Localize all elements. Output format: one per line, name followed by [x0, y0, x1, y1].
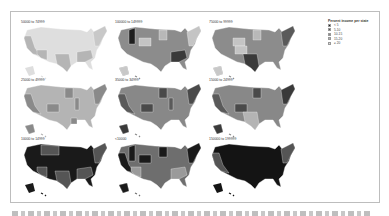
state-region-il	[75, 98, 79, 110]
legend-swatch	[328, 42, 331, 45]
map-panel: 10000 to 14999	[21, 137, 113, 199]
us-choropleth-map	[115, 141, 207, 199]
state-region-ak	[213, 66, 223, 76]
state-region-co	[235, 104, 247, 112]
state-region-ne	[281, 143, 295, 163]
map-panel: 150000 to 199999	[209, 137, 301, 199]
state-region-ne	[93, 26, 107, 46]
state-region-wy	[139, 155, 151, 163]
hawaii	[229, 193, 234, 196]
state-region-ak	[25, 124, 35, 134]
legend-swatch	[328, 37, 331, 40]
us-choropleth-map	[21, 24, 113, 82]
legend: Percent income per state < 55-1010-1515-…	[328, 19, 372, 46]
state-region-id	[129, 28, 135, 44]
caption-cut-off-text	[12, 211, 372, 216]
map-panel: 75000 to 99999	[209, 20, 301, 82]
map-panel: 25000 to 49999	[21, 78, 113, 140]
state-region-mn	[159, 30, 167, 40]
state-region-co	[235, 46, 247, 54]
us-choropleth-map	[115, 82, 207, 140]
map-panel: <10000	[115, 137, 207, 199]
alaska	[25, 66, 35, 76]
hawaii	[41, 193, 46, 196]
state-region-wy	[139, 38, 151, 46]
state-region-ne	[93, 143, 107, 163]
legend-item: ≥ 20	[328, 41, 372, 46]
state-region-il	[169, 98, 173, 110]
state-region-tx	[243, 54, 259, 72]
hawaii	[135, 193, 140, 196]
state-region-tx	[55, 54, 71, 72]
state-region-mn	[159, 88, 167, 98]
legend-swatch	[328, 33, 331, 36]
us-choropleth-map	[21, 82, 113, 140]
legend-label: 5-10	[334, 28, 340, 32]
legend-label: < 5	[334, 23, 339, 27]
map-panel: 35000 to 34999	[115, 78, 207, 140]
legend-label: 10-15	[334, 32, 342, 36]
state-region-ak	[119, 124, 129, 134]
us-choropleth-map	[209, 82, 301, 140]
state-region-ak	[119, 183, 129, 193]
us-choropleth-map	[115, 24, 207, 82]
state-region-mn	[253, 88, 261, 98]
map-panel: 50000 to 74999	[21, 20, 113, 82]
state-region-ne	[187, 84, 201, 104]
state-region-tx	[243, 112, 259, 130]
state-region-la	[71, 118, 77, 124]
state-region-mt	[41, 145, 59, 155]
state-region-co	[141, 104, 153, 112]
state-region-tx	[55, 171, 71, 189]
us-choropleth-map	[209, 141, 301, 199]
legend-label: 15-20	[334, 37, 342, 41]
state-region-mn	[65, 88, 73, 98]
legend-swatch	[328, 24, 331, 27]
state-region-ak	[119, 66, 129, 76]
figure-caption	[12, 209, 372, 216]
state-region-co	[47, 104, 59, 112]
us-choropleth-map	[209, 24, 301, 82]
map-panel: 15000 to 24999	[209, 78, 301, 140]
state-region-ne	[187, 143, 201, 163]
state-region-ne	[93, 84, 107, 104]
state-region-wy	[233, 38, 245, 46]
us-choropleth-map	[21, 141, 113, 199]
legend-label: ≥ 20	[334, 41, 340, 45]
state-region-ak	[213, 124, 223, 134]
state-region-ne	[281, 84, 295, 104]
state-region-mn	[159, 147, 167, 157]
state-region-ne	[187, 26, 201, 46]
state-region-id	[129, 145, 135, 161]
state-region-ne	[281, 26, 295, 46]
alaska	[25, 183, 35, 193]
alaska	[213, 183, 223, 193]
state-region-mn	[253, 30, 261, 40]
legend-swatch	[328, 28, 331, 31]
map-panel: 100000 to 149999	[115, 20, 207, 82]
